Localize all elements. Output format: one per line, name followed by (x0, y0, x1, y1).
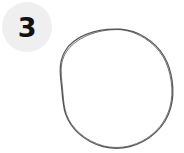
step-number-badge: 3 (2, 2, 52, 52)
step-number-label: 3 (18, 14, 36, 41)
screenshot-canvas: 3 (0, 0, 184, 153)
